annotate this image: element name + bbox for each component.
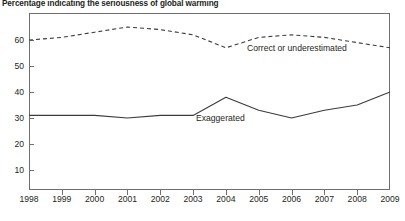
- y-axis-label-40: 40: [2, 87, 24, 97]
- x-axis-tick-2007: [324, 190, 325, 195]
- y-axis-label-30: 30: [2, 113, 24, 123]
- x-axis-label-2002: 2002: [143, 194, 177, 205]
- chart-title: Percentage indicating the seriousness of…: [2, 0, 402, 11]
- y-axis-tick-50: [29, 66, 34, 67]
- x-axis-label-2000: 2000: [78, 194, 112, 205]
- x-axis-label-2001: 2001: [110, 194, 144, 205]
- y-axis-label-50: 50: [2, 61, 24, 71]
- x-axis-tick-2002: [160, 190, 161, 195]
- y-axis-tick-20: [29, 144, 34, 145]
- plot-frame: [29, 13, 390, 190]
- y-axis-tick-60: [29, 40, 34, 41]
- y-axis-tick-30: [29, 118, 34, 119]
- x-axis-label-2003: 2003: [176, 194, 210, 205]
- x-axis-label-2009: 2009: [373, 194, 405, 205]
- x-axis-tick-2001: [127, 190, 128, 195]
- x-axis-tick-2003: [193, 190, 194, 195]
- x-axis-label-2006: 2006: [275, 194, 309, 205]
- x-axis-label-2004: 2004: [209, 194, 243, 205]
- series-label-correct: Correct or underestimated: [247, 43, 347, 54]
- x-axis-tick-2008: [357, 190, 358, 195]
- x-axis-label-1998: 1998: [12, 194, 46, 205]
- x-axis-tick-2000: [95, 190, 96, 195]
- x-axis-label-2005: 2005: [242, 194, 276, 205]
- y-axis-tick-10: [29, 170, 34, 171]
- y-axis-label-20: 20: [2, 139, 24, 149]
- y-axis-label-10: 10: [2, 165, 24, 175]
- x-axis-tick-1999: [62, 190, 63, 195]
- x-axis-label-1999: 1999: [45, 194, 79, 205]
- x-axis-label-2007: 2007: [307, 194, 341, 205]
- chart-container: Percentage indicating the seriousness of…: [0, 0, 405, 221]
- y-axis-tick-40: [29, 92, 34, 93]
- x-axis-tick-2006: [292, 190, 293, 195]
- x-axis-tick-2004: [226, 190, 227, 195]
- x-axis-tick-2005: [259, 190, 260, 195]
- y-axis-label-60: 60: [2, 35, 24, 45]
- x-axis-label-2008: 2008: [340, 194, 374, 205]
- series-label-exaggerated: Exaggerated: [196, 113, 245, 124]
